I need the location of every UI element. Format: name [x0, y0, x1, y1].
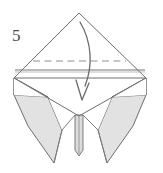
origami-figure — [0, 0, 163, 173]
step-number-label: 5 — [12, 27, 21, 44]
origami-diagram: 5 — [0, 0, 163, 173]
